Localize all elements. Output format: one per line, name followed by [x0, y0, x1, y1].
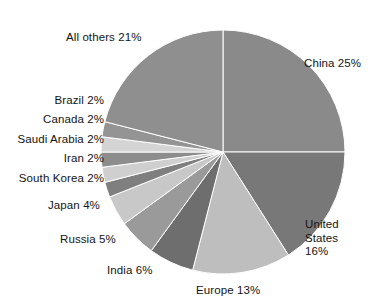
slice-label-india: India 6% — [107, 264, 153, 278]
slice-label-china: China 25% — [304, 57, 361, 71]
slice-label-south-korea: South Korea 2% — [0, 172, 104, 186]
slice-label-iran: Iran 2% — [0, 152, 104, 166]
slice-label-canada: Canada 2% — [0, 113, 104, 127]
pie-chart-page: China 25% United States 16% Europe 13% I… — [0, 0, 388, 306]
slice-label-brazil: Brazil 2% — [0, 94, 104, 108]
slice-label-united-states: United States 16% — [305, 218, 361, 259]
slice-label-europe: Europe 13% — [196, 284, 260, 298]
slice-label-russia: Russia 5% — [60, 233, 116, 247]
slice-label-japan: Japan 4% — [48, 199, 100, 213]
pie-slice-china — [223, 30, 345, 152]
slice-label-saudi-arabia: Saudi Arabia 2% — [0, 133, 104, 147]
slice-label-all-others: All others 21% — [66, 31, 142, 45]
